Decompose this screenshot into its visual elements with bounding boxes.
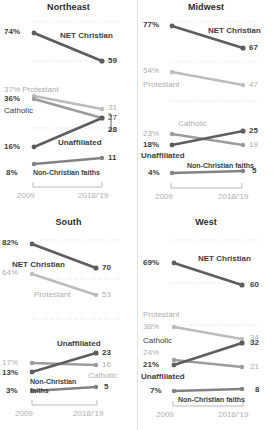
label-protestant: Protestant (143, 81, 179, 89)
series-point-catholic-2019 (241, 143, 245, 147)
series-point-net-christian-2019 (99, 58, 104, 63)
value-catholic-end: 16 (102, 361, 111, 369)
series-point-protestant-2009 (30, 272, 34, 276)
label-catholic: Catholic (88, 372, 117, 380)
label-catholic: Catholic (143, 337, 172, 345)
series-point-non-christian-2019 (100, 156, 104, 160)
x-axis-label-2019: 2018/'19 (218, 193, 248, 201)
plot-south: 82% NET Christian 70 64% Protestant 53 U… (0, 215, 137, 430)
value-catholic-start: 24% (143, 349, 159, 357)
series-point-unaffiliated-2019 (99, 115, 104, 120)
label-non-christian: Non-Christian faiths (33, 169, 100, 176)
label-unaffiliated: Unaffiliated (58, 139, 102, 147)
panel-west: West (137, 215, 274, 430)
plot-west: 69% NET Christian 60 Protestant 38% 34 C… (138, 215, 274, 430)
value-unaffiliated-end: 21 (250, 363, 259, 371)
series-point-catholic-2009 (30, 361, 34, 365)
series-point-net-christian-2009 (30, 242, 35, 247)
series-line-protestant (172, 72, 243, 85)
value-protestant-start: 64% (2, 269, 18, 277)
label-net-christian: NET Christian (12, 261, 65, 269)
x-axis-label-2019: 2018/'19 (78, 192, 108, 200)
series-point-catholic-2019 (240, 365, 244, 369)
series-line-net-christian (174, 263, 242, 285)
series-point-unaffiliated-2009 (170, 143, 175, 148)
value-non-christian-start: 4% (148, 169, 160, 177)
series-point-protestant-2019 (100, 107, 104, 111)
label-net-christian: NET Christian (60, 32, 113, 40)
series-point-unaffiliated-2009 (30, 370, 35, 375)
value-non-christian-start: 8% (6, 169, 18, 177)
value-unaffiliated-end: 28 (108, 126, 117, 134)
value-unaffiliated-start: 16% (4, 143, 20, 151)
x-axis-bracket (33, 182, 102, 187)
label-unaffiliated: Unaffiliated (141, 373, 185, 381)
value-unaffiliated-start: 13% (2, 369, 18, 377)
value-protestant-end: 53 (102, 291, 111, 299)
series-point-non-christian-2009 (32, 162, 36, 166)
x-axis-label-2009: 2009 (17, 192, 35, 200)
series-point-protestant-2009 (170, 70, 174, 74)
panel-northeast: Northeast (0, 0, 137, 215)
value-unaffiliated-end: 23 (102, 349, 111, 357)
label-net-christian: NET Christian (198, 255, 251, 263)
series-point-net-christian-2009 (32, 31, 37, 36)
value-non-christian-end: 11 (108, 154, 116, 162)
value-net-start: 77% (143, 21, 159, 29)
series-line-unaffiliated (174, 343, 242, 365)
panel-midwest: Midwest (137, 0, 274, 215)
value-protestant-start: 54% (143, 67, 159, 75)
series-point-non-christian-2009 (170, 171, 174, 175)
series-point-protestant-2019 (94, 293, 98, 297)
value-net-end: 70 (102, 264, 111, 272)
series-line-non-christian (174, 389, 242, 391)
value-catholic-start: 17% (2, 359, 18, 367)
value-net-end: 67 (249, 44, 258, 52)
series-point-catholic-2009 (172, 358, 176, 362)
label-non-christian-line1: Non-Christian (30, 378, 76, 385)
series-point-net-christian-2009 (172, 261, 177, 266)
x-axis-label-2019: 2018/'19 (73, 410, 103, 418)
value-net-start: 74% (4, 28, 20, 36)
value-unaffiliated-start: 18% (143, 141, 159, 149)
x-axis-label-2009: 2009 (155, 193, 173, 201)
value-catholic-start: 36% (4, 95, 20, 103)
value-unaffiliated-start: 21% (143, 361, 159, 369)
series-point-unaffiliated-2009 (172, 363, 177, 368)
series-point-catholic-2009 (170, 132, 174, 136)
series-point-unaffiliated-2019 (93, 350, 98, 355)
series-line-non-christian (172, 171, 243, 173)
series-point-non-christian-2019 (240, 387, 244, 391)
value-non-christian-end: 8 (255, 386, 259, 394)
panel-south: South (0, 215, 137, 430)
series-point-net-christian-2019 (93, 265, 98, 270)
value-non-christian-end: 5 (104, 383, 108, 391)
series-point-net-christian-2019 (240, 45, 245, 50)
x-axis-label-2009: 2009 (156, 411, 174, 419)
value-non-christian-end: 5 (252, 167, 256, 175)
series-point-catholic-2009 (32, 97, 36, 101)
chart-svg-south (0, 215, 137, 430)
series-point-unaffiliated-2009 (32, 145, 37, 150)
series-point-unaffiliated-2019 (240, 128, 245, 133)
value-unaffiliated-end-light: 19 (249, 141, 258, 149)
series-point-non-christian-2009 (172, 389, 176, 393)
x-axis-bracket (32, 400, 97, 405)
series-point-unaffiliated-2019 (239, 340, 244, 345)
x-axis-bracket (171, 183, 242, 188)
label-protestant-inline: 37% Protestant (4, 86, 59, 94)
series-point-protestant-2019 (241, 83, 245, 87)
value-protestant-start: 38% (143, 323, 159, 331)
label-non-christian: Non-Christian faiths (178, 396, 245, 403)
value-catholic-end: 27 (108, 114, 117, 122)
series-line-protestant (174, 327, 242, 339)
region-panels-grid: Northeast (0, 0, 274, 430)
x-axis-label-2009: 2009 (15, 410, 33, 418)
label-unaffiliated: Unaffiliated (57, 340, 101, 348)
label-net-christian: NET Christian (208, 27, 261, 35)
label-catholic: Catholic (178, 120, 207, 128)
series-point-net-christian-2009 (170, 24, 175, 29)
plot-midwest: 77% NET Christian 67 54% Protestant 47 C… (138, 0, 274, 215)
plot-northeast: 74% NET Christian 59 37% Protestant 31 3… (0, 0, 137, 215)
value-catholic-end: 32 (250, 339, 259, 347)
